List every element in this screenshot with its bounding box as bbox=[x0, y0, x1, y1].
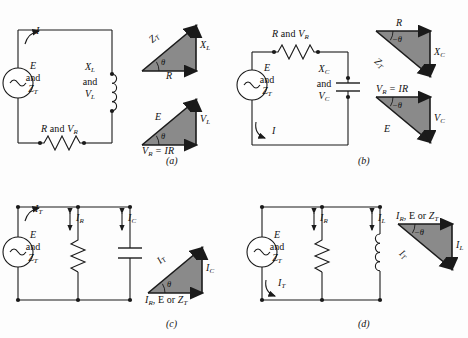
panel-d-current-triangle bbox=[398, 224, 452, 269]
current-arrow-d bbox=[266, 280, 275, 296]
panel-tag-b: (b) bbox=[358, 155, 370, 166]
triangle-b1-vertical-label: XC bbox=[434, 47, 445, 59]
panel-tag-d: (d) bbox=[358, 318, 370, 329]
branch-current-label-c-c: IC bbox=[128, 213, 136, 225]
triangle-b2-vertical-label: VC bbox=[434, 113, 445, 125]
branch-current-label-c-r: IR bbox=[76, 213, 84, 225]
total-current-label-d: IT bbox=[278, 278, 285, 290]
resistor-symbol-d bbox=[315, 236, 329, 272]
resistor-symbol-a bbox=[40, 136, 84, 150]
source-label-d: E and ZT bbox=[244, 229, 310, 267]
current-label-b: I bbox=[272, 126, 275, 137]
figure-canvas bbox=[0, 0, 468, 338]
inductor-label-a: XL and VL bbox=[72, 61, 108, 103]
resistor-label-a: R and VR bbox=[41, 124, 78, 136]
resistor-symbol-b bbox=[274, 45, 318, 59]
source-label-c: E and ZT bbox=[0, 229, 66, 267]
triangle-a1-angle-label: θ bbox=[161, 57, 165, 67]
triangle-a2-angle-label: θ bbox=[161, 131, 165, 141]
triangle-d-horizontal-label: IR, E or ZT bbox=[396, 211, 438, 223]
triangle-c-vertical-label: IC bbox=[206, 263, 214, 275]
branch-current-label-d-l: IL bbox=[378, 213, 385, 225]
triangle-b2-angle-label: −θ bbox=[392, 100, 402, 110]
source-label-b: E and ZT bbox=[234, 62, 300, 100]
source-label-a: E and ZT bbox=[0, 60, 66, 98]
triangle-b2-horizontal-label: VR = IR bbox=[376, 84, 408, 96]
triangle-d-vertical-label: IL bbox=[456, 240, 463, 252]
resistor-label-b: R and VR bbox=[272, 29, 309, 41]
triangle-a2-hypotenuse-label: E bbox=[155, 112, 161, 123]
panel-tag-a: (a) bbox=[166, 155, 178, 166]
triangle-b1-angle-label: −θ bbox=[392, 34, 402, 44]
branch-current-label-d-r: IR bbox=[320, 213, 328, 225]
resistor-symbol-c bbox=[71, 236, 85, 272]
current-label-a: I bbox=[36, 26, 39, 37]
circuit-figure: I E and ZT XL and VL R and VR ZT XL R θ … bbox=[0, 0, 468, 338]
capacitor-symbol-c bbox=[118, 248, 142, 258]
triangle-c-angle-label: θ bbox=[167, 279, 171, 289]
inductor-symbol-a bbox=[112, 74, 117, 111]
panel-tag-c: (c) bbox=[166, 318, 177, 329]
panel-b-impedance-triangle bbox=[376, 31, 430, 76]
triangle-a1-horizontal-label: R bbox=[166, 71, 172, 82]
total-current-label-c: IT bbox=[35, 204, 42, 216]
triangle-a2-vertical-label: VL bbox=[200, 114, 210, 126]
inductor-symbol-d bbox=[375, 234, 380, 271]
triangle-c-horizontal-label: IR, E or ZT bbox=[145, 295, 187, 307]
triangle-a1-vertical-label: XL bbox=[200, 40, 210, 52]
triangle-d-angle-label: −θ bbox=[414, 227, 424, 237]
panel-a-voltage-triangle bbox=[142, 100, 196, 145]
current-arrow-b bbox=[256, 122, 265, 138]
panel-b-voltage-triangle bbox=[376, 97, 430, 142]
capacitor-label-b: XC and VC bbox=[306, 63, 342, 105]
triangle-b1-horizontal-label: R bbox=[396, 18, 402, 29]
triangle-b2-hypotenuse-label: E bbox=[384, 124, 390, 135]
